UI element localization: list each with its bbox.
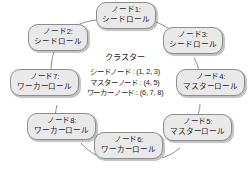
- node-7-label: ノード7:: [30, 73, 60, 82]
- node-4[interactable]: ノード4: マスターロール: [176, 69, 245, 96]
- node-1-label: ノード1:: [111, 6, 141, 15]
- cluster-master-nodes: マスターノード : (4, 5): [62, 78, 188, 89]
- node-4-role: マスターロール: [183, 83, 238, 92]
- cluster-seed-nodes: シードノード : (1, 2, 3): [62, 67, 188, 78]
- node-8-role: ワーカーロール: [34, 127, 89, 136]
- cluster-info: クラスター シードノード : (1, 2, 3) マスターノード : (4, 5…: [62, 50, 188, 99]
- node-3-label: ノード3:: [178, 31, 208, 40]
- node-5[interactable]: ノード5: マスターロール: [163, 114, 232, 141]
- node-8-label: ノード8:: [47, 117, 77, 126]
- node-8[interactable]: ノード8: ワーカーロール: [27, 113, 96, 140]
- cluster-topology-diagram: ノード1: シードロール ノード2: シードロール ノード3: シードロール ノ…: [0, 0, 250, 183]
- connector-node2-node7: [51, 52, 54, 70]
- node-3[interactable]: ノード3: シードロール: [163, 27, 223, 54]
- connector-node5-node6: [162, 148, 180, 158]
- node-2-role: シードロール: [34, 38, 81, 47]
- node-5-role: マスターロール: [170, 128, 225, 137]
- node-1-role: シードロール: [102, 16, 149, 25]
- node-2-label: ノード2:: [43, 28, 73, 37]
- node-1[interactable]: ノード1: シードロール: [96, 2, 156, 29]
- cluster-worker-nodes: ワーカーノード : (6, 7, 8): [62, 88, 188, 99]
- node-4-label: ノード4:: [196, 73, 226, 82]
- node-5-label: ノード5:: [183, 118, 213, 127]
- node-6-role: ワーカーロール: [101, 146, 156, 155]
- node-3-role: シードロール: [169, 41, 216, 50]
- node-7[interactable]: ノード7: ワーカーロール: [10, 69, 79, 96]
- node-2[interactable]: ノード2: シードロール: [28, 24, 88, 51]
- node-6[interactable]: ノード6: ワーカーロール: [94, 132, 163, 159]
- node-6-label: ノード6:: [114, 136, 144, 145]
- node-7-role: ワーカーロール: [17, 83, 72, 92]
